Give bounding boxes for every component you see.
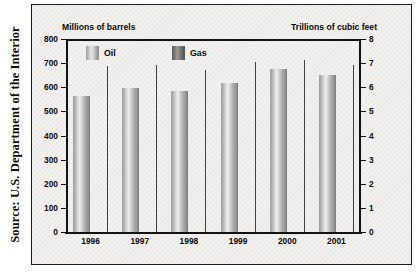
bar-gas [337, 65, 354, 232]
right-tick-label: 4 [369, 132, 374, 140]
right-tick-mark [361, 184, 366, 185]
legend-item-gas: Gas [172, 46, 207, 60]
legend-item-oil: Oil [86, 46, 116, 60]
bar-series-container [66, 39, 361, 232]
bar-swatch-icon-gas [172, 46, 185, 60]
right-tick-mark [361, 39, 366, 40]
right-tick-mark [361, 232, 366, 233]
plot-area: 8007006005004003002001000 876543210 [66, 39, 361, 232]
bottom-axis-line [65, 232, 362, 234]
bar-gas [91, 66, 108, 232]
right-tick-mark [361, 136, 366, 137]
left-tick-label: 600 [44, 83, 58, 91]
x-axis-label: 1998 [164, 236, 213, 246]
x-axis-label: 1996 [66, 236, 115, 246]
left-tick-label: 200 [44, 180, 58, 188]
left-tick-label: 500 [44, 107, 58, 115]
x-axis-labels: 199619971998199920002001 [66, 236, 361, 252]
bar-group [312, 39, 361, 232]
left-tick-label: 300 [44, 156, 58, 164]
bar-gas [140, 65, 157, 232]
left-tick-label: 400 [44, 132, 58, 140]
bar-group [66, 39, 115, 232]
bar-oil [319, 75, 336, 232]
x-axis-label: 1999 [214, 236, 263, 246]
right-tick-label: 0 [369, 228, 374, 236]
source-caption: Source: U.S. Department of the Interior [0, 0, 30, 268]
right-tick-mark [361, 63, 366, 64]
right-axis-title: Trillions of cubic feet [291, 22, 377, 32]
bar-oil [171, 91, 188, 232]
left-tick-label: 700 [44, 59, 58, 67]
bar-gas [288, 60, 305, 232]
right-tick-mark [361, 111, 366, 112]
right-tick-label: 2 [369, 180, 374, 188]
left-tick-label: 0 [53, 228, 58, 236]
chart-figure: Source: U.S. Department of the Interior … [0, 0, 417, 274]
legend-label-gas: Gas [190, 48, 207, 58]
bar-oil [122, 88, 139, 232]
bar-swatch-icon-oil [86, 46, 99, 60]
left-tick-label: 800 [44, 35, 58, 43]
legend-label-oil: Oil [104, 48, 116, 58]
bar-group [214, 39, 263, 232]
bar-oil [73, 96, 90, 232]
bar-group [164, 39, 213, 232]
source-caption-text: Source: U.S. Department of the Interior [8, 26, 23, 242]
left-tick-label: 100 [44, 204, 58, 212]
left-axis-title: Millions of barrels [62, 22, 136, 32]
right-tick-mark [361, 160, 366, 161]
bar-gas [239, 62, 256, 232]
right-tick-label: 1 [369, 204, 374, 212]
bar-oil [270, 69, 287, 232]
left-tick-mark [61, 232, 66, 233]
right-tick-mark [361, 208, 366, 209]
right-tick-label: 6 [369, 83, 374, 91]
x-axis-label: 2000 [263, 236, 312, 246]
x-axis-label: 1997 [115, 236, 164, 246]
right-tick-label: 8 [369, 35, 374, 43]
bar-oil [221, 83, 238, 232]
right-tick-mark [361, 87, 366, 88]
bar-group [263, 39, 312, 232]
bar-gas [189, 70, 206, 232]
bar-group [115, 39, 164, 232]
right-tick-label: 3 [369, 156, 374, 164]
x-axis-label: 2001 [312, 236, 361, 246]
right-tick-label: 5 [369, 107, 374, 115]
right-tick-label: 7 [369, 59, 374, 67]
